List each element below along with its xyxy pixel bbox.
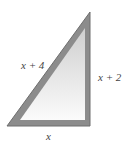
vertical-leg-label: x + 2 [97,71,122,83]
base-label: x [45,130,51,142]
triangle-diagram: x + 4 x + 2 x [0,0,129,145]
hypotenuse-label: x + 4 [20,59,45,71]
